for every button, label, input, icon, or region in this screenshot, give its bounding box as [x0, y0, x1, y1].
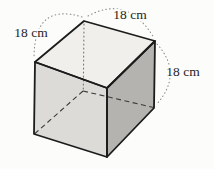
cube-diagram-svg: 18 cm 18 cm 18 cm [0, 0, 214, 169]
edge-label-top-right: 18 cm [113, 7, 147, 22]
edge-label-top-left: 18 cm [14, 25, 48, 40]
cube-figure: 18 cm 18 cm 18 cm [0, 0, 214, 169]
edge-label-right: 18 cm [166, 64, 200, 79]
